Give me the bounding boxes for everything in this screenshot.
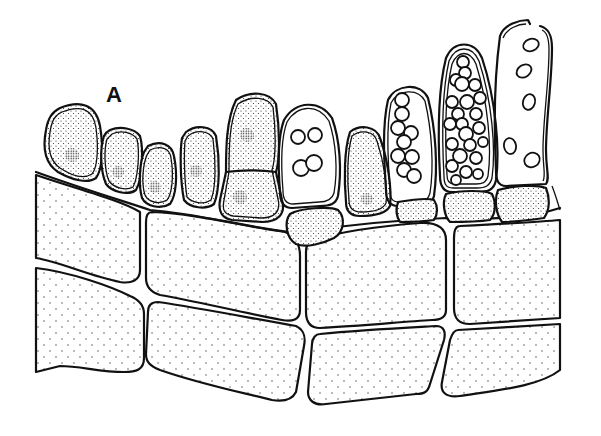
basal-cell — [36, 268, 144, 372]
vegetative-cell — [181, 127, 219, 207]
basal-cell — [308, 326, 445, 404]
cell-diagram — [0, 0, 601, 436]
sporangium-mature — [439, 45, 498, 223]
spore — [395, 93, 409, 107]
stalk-cell — [444, 191, 495, 222]
vegetative-cell — [101, 128, 142, 193]
vegetative-cell — [140, 143, 176, 207]
sporangium-mid — [384, 87, 437, 222]
spore — [308, 128, 322, 142]
nucleus — [112, 166, 124, 178]
basal-cell — [442, 324, 560, 396]
spore — [291, 130, 305, 144]
basal-cell — [454, 220, 560, 324]
spore — [522, 150, 543, 170]
spore — [391, 149, 405, 163]
nucleus — [65, 148, 79, 162]
vegetative-cell — [45, 104, 103, 181]
spore — [405, 150, 419, 164]
spore-cluster — [444, 56, 488, 185]
nucleus — [190, 165, 202, 177]
sporangium-early — [279, 105, 343, 246]
nucleus — [149, 181, 161, 193]
spore — [407, 169, 421, 183]
spore — [397, 135, 411, 149]
stalk-cell — [397, 199, 437, 222]
nucleus — [240, 128, 254, 142]
spore — [395, 107, 409, 121]
spore — [514, 61, 534, 80]
stalk-cell — [496, 186, 549, 222]
spore — [391, 121, 405, 135]
spore — [521, 93, 537, 112]
sporangium-empty — [495, 20, 560, 222]
nucleus — [361, 193, 373, 205]
spore — [521, 37, 540, 54]
nucleus — [233, 190, 247, 204]
outer-sheath — [552, 186, 560, 210]
two-celled-vegetative-cell — [220, 94, 284, 222]
spore — [306, 155, 322, 171]
spore — [503, 137, 518, 155]
